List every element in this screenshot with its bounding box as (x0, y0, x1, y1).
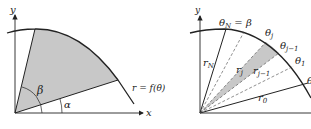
curve-label: r = f(θ) (132, 83, 166, 93)
r-0-label: r0 (258, 92, 268, 105)
alpha-arc (60, 99, 62, 113)
theta-j-label: θj (265, 27, 274, 40)
x-axis-label: x (146, 107, 152, 118)
y-axis-label: y (9, 4, 16, 15)
y-axis-label-right: y (194, 5, 201, 15)
r-n-label: rN (203, 57, 215, 70)
theta-1-label: θ1 (295, 55, 306, 68)
theta-n-label: θN = β (219, 17, 252, 30)
r-j1-label: rj−1 (253, 65, 270, 78)
theta-j1-label: θj−1 (280, 40, 299, 53)
beta-label: β (36, 84, 43, 97)
polar-area-figure: y x β α r = f(θ) y θN = β θj θj−1 θ1 θ r… (0, 0, 311, 129)
theta-0-partial-label: θ (307, 75, 311, 86)
alpha-label: α (64, 99, 71, 110)
left-diagram: y x β α r = f(θ) (7, 4, 166, 118)
right-diagram: y θN = β θj θj−1 θ1 θ rN rj rj−1 r0 (190, 5, 311, 113)
